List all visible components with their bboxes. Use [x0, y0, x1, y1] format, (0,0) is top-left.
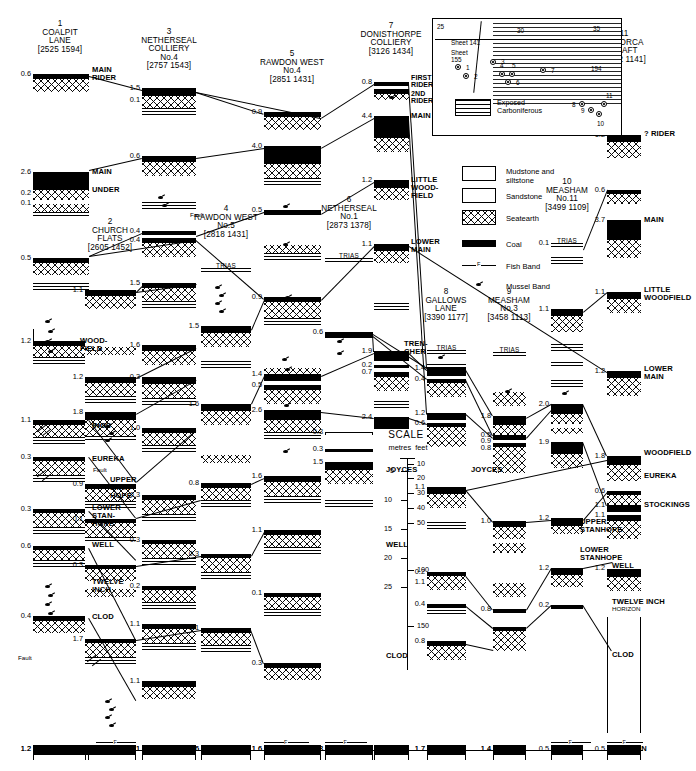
bed-coal	[607, 456, 641, 465]
bed-mud	[493, 553, 526, 583]
seam-label: JOYCES	[471, 466, 502, 474]
thickness-value: 1.0	[120, 424, 140, 432]
bed-seat	[142, 433, 196, 445]
bed-mud	[264, 506, 321, 530]
thickness-value: 0.3	[303, 428, 323, 436]
scale-units: metres feet	[376, 444, 440, 452]
bed-sand	[607, 410, 641, 432]
base-thickness-value: 1.1	[120, 745, 140, 753]
bed-mud	[33, 485, 89, 509]
bed-coal	[142, 88, 196, 96]
bed-silt	[142, 602, 196, 612]
fish-band-mark: F	[622, 739, 626, 745]
bed-seat	[493, 425, 526, 435]
bed-mud	[33, 307, 89, 329]
thickness-value: 0.3	[11, 453, 31, 461]
column-grid-ref-5: [2851 1431]	[232, 76, 352, 85]
scale-tick-feet	[407, 464, 414, 465]
thickness-value: 1.6	[120, 341, 140, 349]
fish-band: F	[96, 742, 136, 743]
map-site-marker-11[interactable]	[601, 101, 607, 107]
fault-tick	[37, 425, 46, 433]
legend-swatch-mudstone	[462, 166, 496, 181]
legend-label-fish-band: Fish Band	[506, 262, 540, 271]
bed-coal	[264, 374, 321, 381]
bed-sand	[264, 261, 321, 273]
bed-silt	[374, 401, 409, 409]
bed-seat	[374, 138, 409, 152]
map-site-marker-5[interactable]	[509, 71, 515, 77]
bed-sand	[493, 503, 526, 521]
base-thickness-value: 1.4	[471, 745, 491, 753]
borehole-column-9	[493, 352, 526, 760]
seam-label: LOWERMAIN	[644, 365, 673, 381]
map-site-marker-1[interactable]	[455, 64, 461, 70]
bed-mud	[551, 733, 583, 745]
bed-mud	[201, 390, 251, 404]
scale-bar: SCALEmetres feet102030405010015051015202…	[376, 430, 446, 670]
seam-correlation-figure: TRIASTRIASTRIASTRIASTRIAS1COALPITLANE[25…	[0, 0, 696, 771]
thickness-value: 0.8	[471, 444, 491, 452]
bed-mud	[201, 540, 251, 554]
correlation-tie-line	[89, 158, 142, 171]
map-site-marker-4[interactable]	[499, 71, 505, 77]
legend-label-coal: Coal	[506, 240, 522, 249]
map-site-marker-10[interactable]	[596, 111, 602, 117]
bed-mud	[142, 522, 196, 540]
map-grid-label: 35	[593, 25, 600, 32]
bed-mud	[551, 468, 583, 518]
bed-silt	[85, 396, 136, 404]
thickness-value: 0.2	[529, 601, 549, 609]
bed-sand	[264, 619, 321, 643]
seam-label: WELL	[92, 541, 114, 549]
column-name-5: RAWDON WESTNo.4	[232, 59, 352, 76]
scale-tick-metres	[401, 558, 408, 559]
bed-contact	[325, 432, 373, 433]
map-site-marker-6[interactable]	[505, 79, 511, 85]
thickness-value: 1.1	[63, 286, 83, 294]
bed-coal	[374, 417, 409, 429]
thickness-value: 1.1	[120, 620, 140, 628]
bed-seat	[607, 465, 641, 481]
bed-coal	[607, 505, 641, 512]
bed-mud	[493, 406, 526, 416]
bed-seat	[493, 631, 526, 651]
scale-tick-feet	[407, 508, 414, 509]
bed-seat	[142, 687, 196, 699]
map-legend-swatch	[455, 99, 491, 116]
bed-silt	[33, 357, 89, 365]
bed-silt	[264, 253, 321, 261]
bed-seat	[142, 96, 196, 108]
bed-mud	[325, 550, 373, 590]
seam-label: LITTLEWOODFIELD	[644, 286, 691, 302]
bed-mud	[374, 152, 409, 180]
bed-mud	[551, 534, 583, 560]
fault-tick	[37, 470, 46, 478]
legend-swatch-seatearth	[462, 210, 496, 225]
thickness-value: 0.1	[63, 515, 83, 523]
bed-seat	[142, 500, 196, 514]
thickness-value: 1.2	[405, 409, 425, 417]
correlation-tie-line	[321, 118, 374, 149]
map-site-marker-7[interactable]	[540, 67, 546, 73]
bed-sand	[142, 120, 196, 146]
map-site-marker-9[interactable]	[588, 107, 594, 113]
seam-label: UNDER	[92, 186, 120, 194]
thickness-value: 0.2	[11, 189, 31, 197]
bed-seat	[493, 543, 526, 553]
thickness-value: 1.6	[179, 400, 199, 408]
scale-tick-feet	[407, 523, 414, 524]
bed-mud	[427, 397, 466, 413]
legend-swatch-coal	[462, 240, 496, 247]
map-site-marker-2[interactable]	[463, 73, 469, 79]
bed-sand	[33, 633, 89, 733]
bed-seat	[33, 621, 89, 633]
fault-label: Fault	[18, 655, 32, 662]
legend-swatch-sandstone	[462, 188, 496, 203]
bed-coal	[325, 462, 373, 470]
thickness-value: 1.9	[529, 438, 549, 446]
fault-symbol	[86, 655, 102, 665]
map-site-marker-3[interactable]	[490, 59, 496, 65]
map-site-number-7: 7	[551, 67, 555, 74]
seam-label: WOOD-FIELD	[80, 337, 108, 353]
